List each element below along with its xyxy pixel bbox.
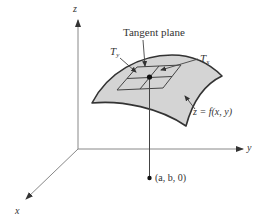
t-y-label: Ty <box>110 46 119 59</box>
y-axis-label: y <box>247 143 251 153</box>
tangent-plane-label: Tangent plane <box>123 27 185 38</box>
t-x-label-sub: x <box>206 58 209 66</box>
t-x-label: Tx <box>200 53 209 66</box>
base-point <box>147 176 151 180</box>
x-axis <box>26 149 78 199</box>
z-axis-label: z <box>73 4 77 14</box>
x-axis-label: x <box>15 206 19 216</box>
surface-point <box>147 74 152 79</box>
tangent-plane-diagram: z y x Tangent plane Ty Tx z = f(x, y) (a… <box>0 0 258 221</box>
base-point-label: (a, b, 0) <box>155 173 186 183</box>
surface-equation-label: z = f(x, y) <box>193 107 232 117</box>
t-y-label-sub: y <box>116 51 119 59</box>
